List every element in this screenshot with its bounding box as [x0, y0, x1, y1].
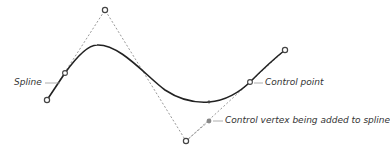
spline-label: Spline — [14, 78, 42, 87]
control-point[interactable] — [248, 80, 253, 85]
curve-mid-point[interactable] — [208, 101, 211, 104]
control-point-label: Control point — [265, 78, 324, 87]
control-vertex-start[interactable] — [44, 97, 49, 102]
new-vertex-label: Control vertex being added to spline — [225, 116, 390, 125]
control-vertex-top[interactable] — [102, 7, 107, 12]
control-vertex-end[interactable] — [282, 47, 287, 52]
spline-point[interactable] — [63, 71, 68, 76]
new-vertex[interactable] — [207, 119, 212, 124]
spline-curve — [47, 45, 285, 102]
control-vertex-bottom[interactable] — [183, 138, 188, 143]
